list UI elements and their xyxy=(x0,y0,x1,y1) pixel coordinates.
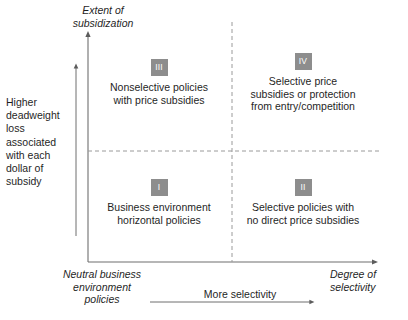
quadrant-iii-badge: III xyxy=(151,59,168,76)
quadrant-iv-badge: IV xyxy=(295,53,312,70)
quadrant-iii: III Nonselective policies with price sub… xyxy=(88,56,230,106)
more-selectivity-label: More selectivity xyxy=(170,288,310,300)
quadrant-ii: II Selective policies with no direct pri… xyxy=(232,176,374,226)
quadrant-ii-label: Selective policies with no direct price … xyxy=(232,201,374,226)
quadrant-iv-label: Selective price subsidies or protection … xyxy=(232,75,374,113)
y-axis-title: Extent of subsidization xyxy=(48,4,158,29)
diagram-canvas: Extent of subsidization Degree of select… xyxy=(0,0,408,320)
x-axis-title: Degree of selectivity xyxy=(330,268,406,293)
quadrant-iv: IV Selective price subsidies or protecti… xyxy=(232,50,374,113)
origin-label: Neutral business environment policies xyxy=(42,268,162,306)
quadrant-i: I Business environment horizontal polici… xyxy=(88,176,230,226)
quadrant-ii-badge: II xyxy=(295,179,312,196)
deadweight-loss-note: Higher deadweight loss associated with e… xyxy=(6,96,68,188)
quadrant-iii-label: Nonselective policies with price subsidi… xyxy=(88,81,230,106)
quadrant-i-badge: I xyxy=(151,179,168,196)
quadrant-i-label: Business environment horizontal policies xyxy=(88,201,230,226)
